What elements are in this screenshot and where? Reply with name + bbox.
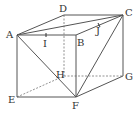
label-D: D: [59, 3, 67, 14]
label-F: F: [72, 100, 79, 111]
edge-DA: [17, 15, 64, 35]
label-C: C: [125, 7, 133, 18]
label-G: G: [125, 71, 133, 82]
label-A: A: [5, 29, 14, 40]
diagonal-AC: [17, 15, 123, 35]
label-B: B: [77, 37, 84, 48]
box-diagram: A B C D E F G H I J: [0, 0, 137, 113]
prism-figure: A B C D E F G H I J: [0, 0, 137, 113]
label-J: J: [95, 25, 100, 36]
label-H: H: [56, 69, 65, 80]
label-I: I: [43, 38, 47, 49]
edge-FG: [76, 76, 123, 97]
label-E: E: [8, 94, 15, 105]
